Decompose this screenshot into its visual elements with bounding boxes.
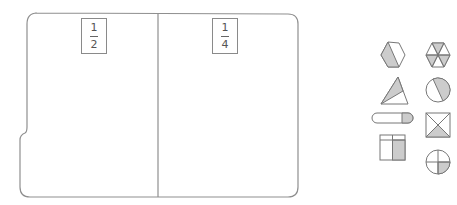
denominator: 4 (222, 39, 229, 51)
fraction-bar (90, 36, 98, 37)
numerator: 1 (91, 22, 98, 34)
column-label-one-half: 1 2 (81, 18, 107, 54)
square-diagonal-quarter-shaded-icon[interactable] (423, 110, 453, 140)
drop-zone-one-half[interactable] (28, 60, 156, 195)
numerator: 1 (222, 22, 229, 34)
drop-zone-one-quarter[interactable] (160, 60, 296, 195)
fraction-sorting-activity: 1 2 1 4 (0, 0, 457, 205)
hexagon-half-shaded-icon[interactable] (377, 40, 407, 70)
circle-quarter-shaded-icon[interactable] (423, 147, 453, 177)
square-grid-half-shaded-icon[interactable] (377, 132, 407, 162)
denominator: 2 (91, 39, 98, 51)
hexagon-sixths-shaded-icon[interactable] (423, 40, 453, 70)
triangle-half-shaded-icon[interactable] (378, 74, 410, 106)
column-label-one-quarter: 1 4 (212, 18, 238, 54)
bar-quarter-shaded-icon[interactable] (371, 111, 415, 125)
circle-half-shaded-icon[interactable] (423, 75, 453, 105)
fraction-bar (221, 36, 229, 37)
